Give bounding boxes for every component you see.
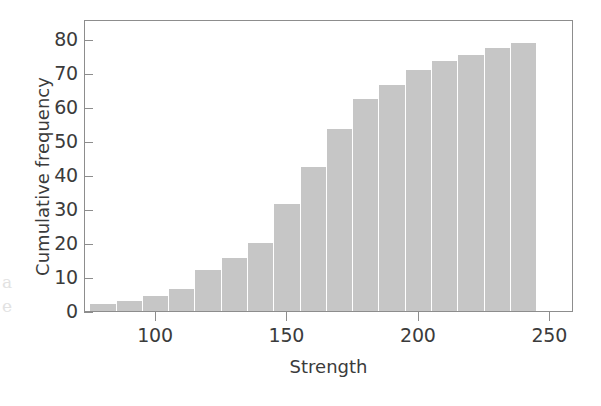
bar (222, 258, 248, 311)
y-axis-tick (84, 74, 93, 75)
bar (169, 289, 195, 311)
cumulative-frequency-chart: a e 01020304050607080 Cumulative frequen… (0, 0, 601, 406)
x-axis-tick (155, 312, 156, 321)
bar (432, 61, 458, 311)
x-axis-tick-label: 250 (514, 324, 584, 346)
y-axis-tick (84, 142, 93, 143)
y-axis-tick (84, 108, 93, 109)
bar (511, 43, 537, 311)
x-axis-tick (286, 312, 287, 321)
x-axis-tick (549, 312, 550, 321)
x-axis-tick (418, 312, 419, 321)
y-axis-tick (84, 244, 93, 245)
bar (458, 55, 484, 311)
bar (353, 99, 379, 311)
plot-area (84, 20, 573, 312)
bar (301, 167, 327, 311)
bar (90, 304, 116, 311)
bar (406, 70, 432, 311)
y-axis-tick (84, 176, 93, 177)
y-axis-tick (84, 278, 93, 279)
x-axis-tick-label: 100 (120, 324, 190, 346)
x-axis-tick-label: 200 (383, 324, 453, 346)
bar (117, 301, 143, 311)
bar-series (85, 21, 572, 311)
bar (274, 204, 300, 311)
margin-ghost-a: a (2, 272, 12, 292)
y-axis-tick (84, 40, 93, 41)
margin-ghost-e: e (2, 296, 12, 316)
x-axis-title: Strength (84, 356, 573, 377)
bar (248, 243, 274, 311)
bar (485, 48, 511, 311)
bar (195, 270, 221, 311)
bar (379, 85, 405, 311)
bar (327, 129, 353, 311)
bar (143, 296, 169, 311)
y-axis-tick (84, 312, 93, 313)
y-axis-title: Cumulative frequency (32, 31, 53, 323)
y-axis-tick (84, 210, 93, 211)
x-axis-tick-label: 150 (251, 324, 321, 346)
